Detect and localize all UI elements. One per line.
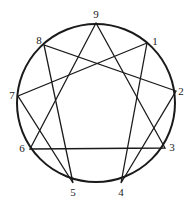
point-label-5: 5 [70,186,76,198]
point-label-3: 3 [169,141,175,153]
enneagram-diagram: 912345678 [0,0,192,210]
point-label-1: 1 [152,35,158,47]
point-label-9: 9 [93,8,99,20]
point-label-4: 4 [118,186,124,198]
point-labels: 912345678 [9,8,184,198]
outer-circle [17,24,175,182]
point-label-6: 6 [19,142,25,154]
hexad-figure [18,43,176,183]
point-label-2: 2 [178,85,184,97]
point-label-8: 8 [36,34,42,46]
point-label-7: 7 [9,89,15,101]
